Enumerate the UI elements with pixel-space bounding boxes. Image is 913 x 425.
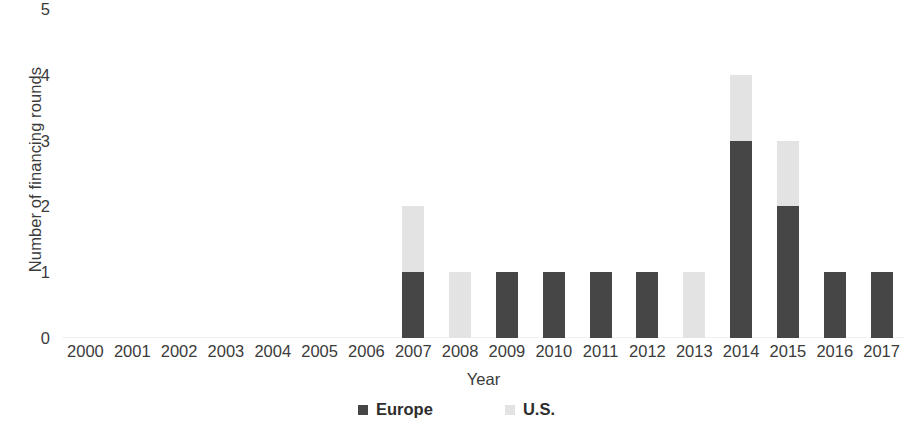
x-axis-tick-labels: 2000200120022003200420052006200720082009… [62, 341, 905, 365]
bar-segment-europe [590, 272, 612, 338]
bar-segment-europe [543, 272, 565, 338]
bar-segment-europe [824, 272, 846, 338]
y-axis-tick-label: 2 [16, 198, 50, 215]
legend-label: Europe [376, 400, 433, 419]
bar-2009 [496, 272, 518, 338]
x-axis-title: Year [62, 370, 905, 389]
bar-segment-us [449, 272, 471, 338]
bar-2016 [824, 272, 846, 338]
legend-item-us[interactable]: U.S. [505, 400, 555, 419]
y-axis-tick-label: 0 [16, 330, 50, 347]
bar-segment-europe [730, 141, 752, 338]
bar-2011 [590, 272, 612, 338]
y-axis-tick-label: 5 [16, 1, 50, 18]
bar-segment-europe [496, 272, 518, 338]
bar-2008 [449, 272, 471, 338]
bar-segment-europe [871, 272, 893, 338]
bar-2013 [683, 272, 705, 338]
chart-legend: EuropeU.S. [0, 400, 913, 419]
bar-2017 [871, 272, 893, 338]
bar-2012 [636, 272, 658, 338]
bar-segment-us [777, 141, 799, 207]
bar-segment-europe [636, 272, 658, 338]
bar-segment-europe [402, 272, 424, 338]
bar-segment-us [683, 272, 705, 338]
bar-2010 [543, 272, 565, 338]
bar-segment-us [730, 75, 752, 141]
y-axis-tick-label: 4 [16, 67, 50, 84]
y-axis-tick-labels: 543210 [16, 0, 50, 425]
financing-rounds-bar-chart: Number of financing rounds 543210 200020… [0, 0, 913, 425]
x-axis-tick-label: 2017 [852, 341, 912, 362]
bar-segment-europe [777, 206, 799, 338]
bar-2007 [402, 206, 424, 338]
legend-item-europe[interactable]: Europe [358, 400, 433, 419]
bar-2014 [730, 75, 752, 338]
plot-area [62, 9, 905, 338]
y-axis-tick-label: 1 [16, 264, 50, 281]
bar-segment-us [402, 206, 424, 272]
y-axis-tick-label: 3 [16, 133, 50, 150]
legend-label: U.S. [523, 400, 555, 419]
bar-2015 [777, 141, 799, 338]
legend-swatch-icon [505, 405, 515, 415]
legend-swatch-icon [358, 405, 368, 415]
